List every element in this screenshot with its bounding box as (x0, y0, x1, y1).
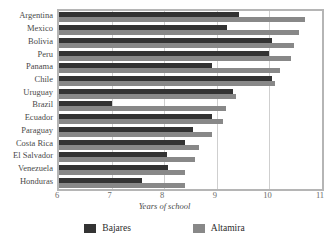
bar-altamira-mexico (59, 30, 299, 35)
legend-swatch-altamira-icon (193, 224, 205, 233)
x-tick-label-11: 11 (316, 190, 324, 200)
legend-item-altamira: Altamira (193, 223, 245, 233)
bar-group (59, 114, 322, 124)
chart-legend: Bajares Altamira (0, 223, 329, 233)
bar-group (59, 51, 322, 61)
bar-altamira-venezuela (59, 170, 185, 175)
x-tick-label-6: 6 (55, 190, 59, 200)
bar-group (59, 127, 322, 137)
bar-altamira-panama (59, 68, 280, 73)
bar-group (59, 178, 322, 188)
bar-altamira-peru (59, 56, 291, 61)
category-label-el-salvador: El Salvador (13, 150, 53, 160)
bar-group (59, 12, 322, 22)
category-label-paraguay: Paraguay (21, 125, 53, 135)
x-tick-label-8: 8 (160, 190, 164, 200)
category-axis-labels: ArgentinaMexicoBoliviaPeruPanamaChileUru… (0, 9, 55, 187)
category-label-costa-rica: Costa Rica (16, 138, 53, 148)
bar-altamira-costa-rica (59, 145, 199, 150)
bar-altamira-bolivia (59, 43, 294, 48)
category-label-panama: Panama (26, 61, 53, 71)
bar-altamira-paraguay (59, 132, 212, 137)
bar-group (59, 63, 322, 73)
x-tick-label-10: 10 (263, 190, 272, 200)
plot-inner (59, 11, 322, 189)
category-label-peru: Peru (37, 49, 53, 59)
legend-label-altamira: Altamira (211, 223, 245, 233)
category-label-brazil: Brazil (32, 99, 53, 109)
category-label-honduras: Honduras (20, 176, 53, 186)
legend-label-bajares: Bajares (102, 223, 131, 233)
bar-group (59, 152, 322, 162)
category-label-bolivia: Bolivia (28, 36, 53, 46)
category-label-uruguay: Uruguay (23, 87, 53, 97)
bar-chart: ArgentinaMexicoBoliviaPeruPanamaChileUru… (0, 0, 329, 242)
bar-group (59, 89, 322, 99)
category-label-venezuela: Venezuela (18, 163, 53, 173)
bar-altamira-ecuador (59, 119, 223, 124)
bar-group (59, 165, 322, 175)
bar-altamira-argentina (59, 17, 305, 22)
category-label-ecuador: Ecuador (25, 112, 53, 122)
x-axis-title: Years of school (0, 201, 329, 211)
category-label-chile: Chile (35, 74, 53, 84)
bar-group (59, 140, 322, 150)
bar-altamira-chile (59, 81, 275, 86)
bar-altamira-brazil (59, 106, 226, 111)
category-label-mexico: Mexico (27, 23, 53, 33)
bar-altamira-el-salvador (59, 157, 195, 162)
legend-swatch-bajares-icon (84, 224, 96, 233)
category-label-argentina: Argentina (19, 10, 53, 20)
bar-altamira-uruguay (59, 94, 236, 99)
bar-group (59, 76, 322, 86)
bar-group (59, 25, 322, 35)
legend-item-bajares: Bajares (84, 223, 131, 233)
bar-group (59, 101, 322, 111)
x-tick-label-7: 7 (107, 190, 111, 200)
bar-altamira-honduras (59, 183, 185, 188)
bar-group (59, 38, 322, 48)
plot-area (57, 9, 324, 191)
x-tick-label-9: 9 (213, 190, 217, 200)
